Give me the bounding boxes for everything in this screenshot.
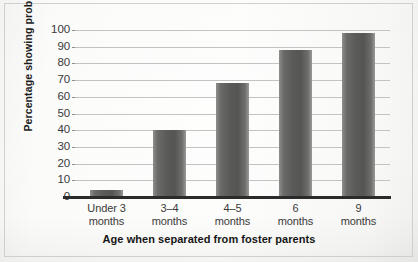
x-axis-title: Age when separated from foster parents — [0, 233, 418, 245]
bar — [153, 130, 186, 197]
y-axis-tick-label: 70 — [44, 73, 70, 85]
y-axis-title: Percentage showing problems — [22, 0, 34, 139]
x-axis-category-line-1: 9 — [355, 202, 361, 214]
x-axis-line — [63, 196, 391, 199]
y-axis-tick-label: 60 — [44, 90, 70, 102]
x-axis-category-label: Under 3months — [75, 202, 138, 227]
x-axis-category-line-2: months — [138, 215, 201, 228]
x-axis-category-line-2: months — [264, 215, 327, 228]
x-axis-category-label: 3–4months — [138, 202, 201, 227]
x-axis-category-line-1: 3–4 — [160, 202, 178, 214]
x-axis-category-line-1: Under 3 — [87, 202, 125, 214]
bar — [279, 50, 312, 197]
x-axis-category-line-2: months — [75, 215, 138, 228]
x-axis-category-label: 4–5months — [201, 202, 264, 227]
x-axis-category-label: 9months — [327, 202, 390, 227]
plot-area — [75, 30, 390, 197]
y-axis-tick-label: 50 — [44, 107, 70, 119]
x-axis-category-line-1: 6 — [292, 202, 298, 214]
x-axis-category-line-2: months — [201, 215, 264, 228]
x-axis-category-label: 6months — [264, 202, 327, 227]
y-axis-tick-label: 30 — [44, 140, 70, 152]
bar — [342, 33, 375, 197]
y-axis-tick-label: 20 — [44, 157, 70, 169]
x-axis-category-line-1: 4–5 — [223, 202, 241, 214]
x-axis-category-line-2: months — [327, 215, 390, 228]
y-axis-tick-label: 40 — [44, 123, 70, 135]
y-axis-tick-label: 10 — [44, 173, 70, 185]
gridline — [75, 30, 390, 31]
y-axis-tick-label: 80 — [44, 56, 70, 68]
y-axis-tick-label: 100 — [44, 23, 70, 35]
chart-figure: Percentage showing problems 100908070605… — [0, 0, 418, 262]
y-axis-tick-label: 90 — [44, 40, 70, 52]
bar — [216, 83, 249, 197]
